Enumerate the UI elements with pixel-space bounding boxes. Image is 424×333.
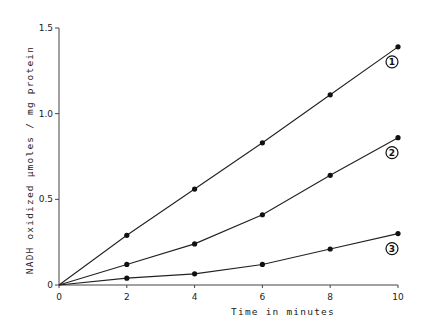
y-tick-label: 0 <box>47 280 53 290</box>
series-3: 3 <box>59 231 401 285</box>
y-tick-label: 1.0 <box>39 109 54 119</box>
series-label: 3 <box>389 244 395 254</box>
data-point <box>260 262 265 267</box>
x-tick-label: 10 <box>392 292 404 302</box>
y-tick-label: 0.5 <box>39 194 53 204</box>
series-label: 2 <box>389 148 395 158</box>
y-tick-label: 1.5 <box>39 23 53 33</box>
x-axis-title: Time in minutes <box>231 306 335 317</box>
data-point <box>328 92 333 97</box>
x-tick-label: 0 <box>56 292 62 302</box>
series-2: 2 <box>59 135 401 285</box>
data-point <box>328 246 333 251</box>
data-series: 123 <box>59 44 401 285</box>
y-axis-title: NADH oxidized μmoles / mg protein <box>24 46 35 274</box>
series-line <box>59 234 398 285</box>
x-tick-label: 2 <box>124 292 130 302</box>
data-point <box>124 233 129 238</box>
x-tick-label: 4 <box>192 292 198 302</box>
x-tick-label: 8 <box>327 292 333 302</box>
data-point <box>395 231 400 236</box>
data-point <box>124 262 129 267</box>
data-point <box>124 276 129 281</box>
x-tick-label: 6 <box>260 292 266 302</box>
data-point <box>192 271 197 276</box>
data-point <box>395 44 400 49</box>
data-point <box>260 212 265 217</box>
line-chart: 024681000.51.01.5 123 Time in minutes NA… <box>0 0 424 333</box>
series-line <box>59 138 398 285</box>
data-point <box>192 186 197 191</box>
series-label: 1 <box>389 57 395 67</box>
data-point <box>260 140 265 145</box>
data-point <box>395 135 400 140</box>
data-point <box>328 173 333 178</box>
data-point <box>192 241 197 246</box>
